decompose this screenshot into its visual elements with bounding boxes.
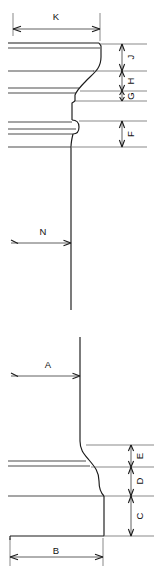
dimension-H: H bbox=[119, 71, 135, 91]
dim-label-e: E bbox=[134, 453, 145, 459]
technical-drawing-canvas: K J H G bbox=[0, 0, 158, 571]
dim-label-g: G bbox=[125, 92, 136, 99]
neck-listel-step bbox=[72, 101, 75, 120]
upper-view-profile bbox=[8, 43, 101, 310]
shaft-left-outline bbox=[71, 134, 73, 310]
dim-label-h: H bbox=[125, 77, 136, 84]
cyma-recta-curve bbox=[75, 57, 101, 101]
lower-view-profile bbox=[8, 337, 104, 540]
dimension-N: N bbox=[11, 226, 71, 246]
dimension-J: J bbox=[119, 44, 135, 71]
abacus-right-return bbox=[99, 43, 101, 57]
dimension-B: B bbox=[10, 538, 103, 566]
dim-label-k: K bbox=[53, 11, 60, 22]
column-profile-drawing: K J H G bbox=[0, 0, 158, 571]
dimension-K: K bbox=[13, 11, 100, 41]
upper-extension-lines bbox=[72, 44, 147, 147]
base-ogee-curve bbox=[80, 441, 104, 496]
dim-label-a: A bbox=[45, 359, 52, 370]
plinth-block-outline bbox=[10, 496, 104, 536]
dimension-A: A bbox=[11, 359, 80, 379]
dimension-C: C bbox=[128, 496, 144, 536]
dimension-F: F bbox=[119, 121, 135, 147]
dimension-E: E bbox=[128, 445, 144, 467]
dim-label-n: N bbox=[40, 226, 47, 237]
dimension-G: G bbox=[120, 91, 136, 101]
dim-label-c: C bbox=[134, 512, 145, 519]
dim-label-d: D bbox=[134, 477, 145, 484]
dim-label-f: F bbox=[125, 131, 136, 137]
dim-label-b: B bbox=[53, 545, 59, 556]
astragal-bead-curve bbox=[72, 120, 79, 134]
dim-label-j: J bbox=[125, 54, 136, 59]
dimension-D: D bbox=[128, 467, 144, 496]
